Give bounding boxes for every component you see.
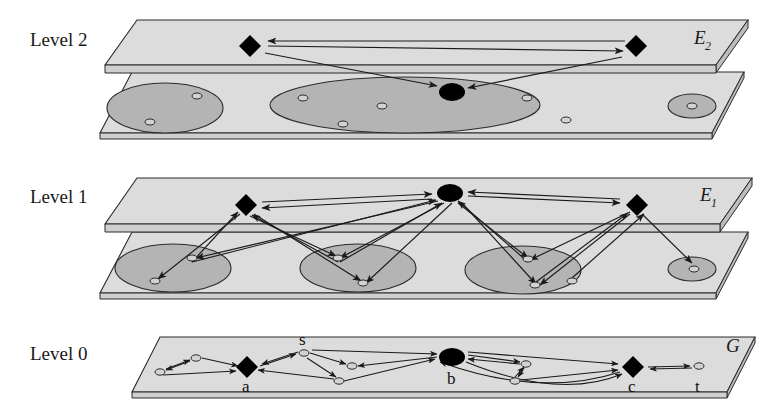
level-0-plane [132, 337, 755, 398]
graph-node [687, 103, 697, 109]
graph-node [298, 95, 308, 101]
graph-node [155, 369, 165, 375]
graph-node [187, 255, 197, 261]
graph-node-s [299, 350, 309, 356]
level-0-set-label: G [726, 335, 740, 356]
abstract-node-b [439, 83, 465, 101]
graph-node [192, 93, 202, 99]
node-label-a: a [242, 377, 250, 396]
graph-node [521, 361, 531, 367]
level-1-group: Level 1 E 1 [30, 178, 752, 299]
node-label-b: b [447, 369, 456, 388]
graph-node [334, 378, 344, 384]
node-label-c: c [628, 377, 636, 396]
level-1-label: Level 1 [30, 186, 88, 207]
graph-node [523, 256, 533, 262]
level-1-set-subscript: 1 [711, 196, 717, 210]
node-label-t: t [695, 377, 700, 396]
graph-node [145, 119, 155, 125]
level-2-upper-plane [105, 20, 748, 73]
graph-node [530, 282, 540, 288]
graph-node [567, 278, 577, 284]
level-1-upper-plane [105, 178, 752, 232]
node-label-s: s [299, 330, 306, 349]
hierarchical-graph-diagram: Level 2 E 2 [0, 0, 775, 412]
cluster-ellipse [270, 77, 540, 133]
graph-node [191, 355, 201, 361]
graph-node [377, 103, 387, 109]
graph-node [522, 95, 532, 101]
graph-node [347, 363, 357, 369]
graph-node-b [439, 348, 465, 366]
graph-node [358, 280, 368, 286]
graph-node [333, 255, 343, 261]
level-2-label: Level 2 [30, 29, 88, 50]
graph-node [561, 117, 571, 123]
cluster-ellipse [115, 244, 231, 292]
graph-node-t [694, 363, 704, 369]
level-0-label: Level 0 [30, 343, 88, 364]
level-2-set-subscript: 2 [705, 39, 711, 53]
graph-node [689, 266, 699, 272]
graph-node [150, 278, 160, 284]
cluster-ellipse [107, 83, 223, 133]
abstract-node-b [437, 184, 463, 202]
level-0-group: Level 0 G a s b c t [30, 330, 755, 398]
figure-canvas: Level 2 E 2 [0, 0, 775, 412]
graph-node [510, 378, 520, 384]
level-2-group: Level 2 E 2 [30, 20, 748, 139]
graph-node [338, 121, 348, 127]
